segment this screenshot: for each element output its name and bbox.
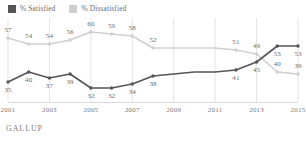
data-point-marker	[151, 74, 154, 77]
data-point-marker	[89, 30, 92, 33]
x-axis-tick-label: 2003	[42, 106, 57, 114]
square-swatch-icon	[8, 5, 16, 13]
data-point-marker	[68, 72, 71, 75]
data-point-label: 41	[232, 75, 239, 82]
data-point-label: 57	[4, 27, 11, 34]
data-point-marker	[6, 36, 9, 39]
data-point-label: 39	[66, 79, 73, 86]
data-point-marker	[131, 82, 134, 85]
data-point-marker	[296, 44, 299, 47]
data-point-label: 45	[253, 67, 260, 74]
data-point-label: 51	[232, 39, 239, 46]
data-point-label: 52	[149, 37, 156, 44]
data-point-label: 53	[274, 51, 281, 58]
data-point-label: 60	[87, 21, 94, 28]
data-point-marker	[296, 72, 299, 75]
data-point-marker	[6, 80, 9, 83]
legend-item-dissatisfied[interactable]: % Dissatisfied	[69, 5, 126, 13]
x-axis-tick-label: 2013	[249, 106, 264, 114]
data-point-marker	[234, 48, 237, 51]
x-axis-tick-label: 2011	[208, 106, 223, 114]
data-point-label: 53	[294, 51, 301, 58]
data-point-marker	[89, 86, 92, 89]
data-point-marker	[151, 46, 154, 49]
source-attribution: GALLUP	[6, 124, 43, 134]
x-axis-tick-label: 2007	[125, 106, 140, 114]
x-axis: 20012003200520072009201120132015	[0, 104, 306, 118]
data-point-label: 40	[25, 77, 32, 84]
data-point-label: 59	[108, 23, 115, 30]
x-axis-tick-label: 2009	[166, 106, 181, 114]
data-point-label: 49	[253, 43, 260, 50]
legend-label-satisfied: % Satisfied	[20, 5, 55, 13]
data-point-label: 56	[66, 29, 73, 36]
data-point-label: 35	[4, 87, 11, 94]
data-point-label: 38	[149, 81, 156, 88]
data-point-label: 54	[25, 33, 32, 40]
legend-label-dissatisfied: % Dissatisfied	[81, 5, 126, 13]
data-point-label: 54	[46, 33, 53, 40]
data-point-label: 32	[108, 93, 115, 100]
data-point-marker	[255, 60, 258, 63]
x-axis-tick-label: 2005	[83, 106, 98, 114]
data-point-marker	[27, 70, 30, 73]
data-point-label: 34	[129, 89, 136, 96]
data-point-label: 58	[129, 25, 136, 32]
data-point-marker	[131, 34, 134, 37]
chart-legend: % Satisfied % Dissatisfied	[8, 2, 126, 16]
data-point-marker	[110, 32, 113, 35]
data-point-marker	[48, 42, 51, 45]
x-axis-tick-label: 2001	[1, 106, 16, 114]
chart-svg	[0, 18, 306, 104]
data-point-marker	[48, 76, 51, 79]
plot-area: 5754545660595852514940393540373932323438…	[0, 18, 306, 104]
data-point-marker	[110, 86, 113, 89]
gallup-line-chart: % Satisfied % Dissatisfied 5754545660595…	[0, 0, 306, 144]
data-point-label: 40	[274, 61, 281, 68]
data-point-label: 32	[87, 93, 94, 100]
data-point-marker	[276, 70, 279, 73]
square-swatch-icon	[69, 5, 77, 13]
data-point-marker	[27, 42, 30, 45]
data-point-marker	[276, 44, 279, 47]
legend-item-satisfied[interactable]: % Satisfied	[8, 5, 55, 13]
data-point-label: 39	[294, 63, 301, 70]
data-point-marker	[255, 52, 258, 55]
data-point-marker	[234, 68, 237, 71]
data-point-label: 37	[46, 83, 53, 90]
data-point-marker	[68, 38, 71, 41]
x-axis-tick-label: 2015	[291, 106, 306, 114]
